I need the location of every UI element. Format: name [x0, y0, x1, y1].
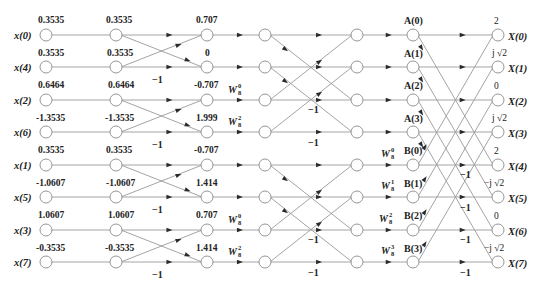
arrow-icon [386, 33, 392, 37]
output-label: X(7) [507, 258, 527, 270]
svg-text:8: 8 [238, 219, 242, 226]
arrow-icon [237, 195, 243, 199]
stage2-value: -0.707 [194, 145, 219, 155]
arrow-icon [316, 98, 322, 102]
arrow-icon [386, 228, 392, 232]
arrow-icon [386, 98, 392, 102]
node-circle [201, 94, 213, 106]
intermediate-label: A(1) [404, 48, 423, 60]
output-label: X(1) [507, 63, 527, 75]
intermediate-label: B(2) [404, 210, 422, 222]
arrow-icon [237, 228, 243, 232]
negation-label: −1 [460, 169, 471, 180]
node-circle [492, 191, 504, 203]
arrow-icon [184, 187, 190, 191]
arrow-icon [237, 65, 243, 69]
output-value: j √2 [491, 113, 507, 123]
arrow-icon [386, 195, 392, 199]
node-circle [492, 94, 504, 106]
stage2-value: 1.414 [196, 178, 218, 188]
output-value: 0 [494, 211, 499, 221]
arrow-icon [460, 65, 466, 69]
intermediate-label: A(2) [404, 80, 423, 92]
arrow-icon [316, 228, 322, 232]
arrow-icon [175, 174, 181, 178]
node-circle [110, 224, 122, 236]
arrow-icon [166, 260, 172, 264]
node-circle [110, 126, 122, 138]
negation-label: −1 [152, 139, 163, 150]
twiddle-factor: W 1 8 [381, 178, 395, 192]
arrow-icon [316, 65, 322, 69]
arrow-icon [166, 33, 172, 37]
node-circle [407, 61, 419, 73]
svg-text:W: W [381, 148, 391, 159]
node-circle [407, 191, 419, 203]
arrow-icon [184, 122, 190, 126]
input-label: x(1) [13, 160, 32, 172]
arrow-icon [166, 98, 172, 102]
svg-text:8: 8 [391, 250, 395, 257]
node-circle [40, 126, 52, 138]
input-value: -1.3535 [36, 113, 66, 123]
intermediate-label: B(0) [404, 145, 422, 157]
arrow-icon [460, 33, 466, 37]
negation-label: −1 [460, 202, 471, 213]
negation-label: −1 [308, 137, 319, 148]
stage1-value: -0.3535 [105, 243, 135, 253]
arrow-icon [316, 60, 322, 65]
stage2-value: -0.707 [194, 80, 219, 90]
stage2-value: 1.999 [196, 113, 218, 123]
node-circle [259, 191, 271, 203]
arrow-icon [166, 65, 172, 69]
arrow-icon [316, 195, 322, 199]
svg-text:W: W [228, 246, 238, 257]
node-circle [492, 224, 504, 236]
labels: x(0) x(4) x(2) x(6) x(1) x(5) x(3) x(7) … [13, 15, 527, 280]
node-circle [40, 94, 52, 106]
node-circle [201, 29, 213, 41]
output-label: X(4) [507, 161, 527, 173]
arrow-icon [460, 98, 466, 102]
input-value: 1.0607 [38, 210, 64, 220]
node-circle [351, 126, 363, 138]
output-label: X(0) [507, 31, 527, 43]
twiddle-factor: W 2 8 [228, 114, 242, 128]
node-circle [110, 159, 122, 171]
svg-text:1: 1 [391, 178, 394, 185]
svg-text:W: W [228, 116, 238, 127]
output-value: −j √2 [484, 178, 505, 188]
arrow-icon [316, 92, 322, 97]
svg-text:W: W [228, 84, 238, 95]
input-label: x(3) [13, 225, 32, 237]
svg-text:W: W [379, 213, 389, 224]
input-label: x(2) [13, 95, 32, 107]
output-label: X(6) [507, 226, 527, 238]
node-circle [259, 94, 271, 106]
node-circle [201, 224, 213, 236]
node-circle [40, 256, 52, 268]
arrow-icon [386, 65, 392, 69]
node-circle [259, 224, 271, 236]
node-circle [110, 29, 122, 41]
svg-text:8: 8 [389, 218, 393, 225]
svg-text:3: 3 [391, 243, 395, 250]
node-circle [110, 191, 122, 203]
node-circle [407, 224, 419, 236]
stage2-value: 0.707 [196, 210, 218, 220]
arrow-icon [386, 163, 392, 167]
negation-label: −1 [152, 74, 163, 85]
node-circle [259, 159, 271, 171]
arrow-icon [460, 228, 466, 232]
node-circle [351, 256, 363, 268]
stage2-value: 1.414 [196, 243, 218, 253]
input-value: 0.3535 [38, 48, 64, 58]
node-circle [40, 191, 52, 203]
twiddle-factor: W 0 8 [228, 212, 242, 226]
svg-text:0: 0 [391, 146, 394, 153]
stage1-value: 0.3535 [107, 48, 133, 58]
stage2-value: 0 [205, 48, 210, 58]
node-circle [259, 29, 271, 41]
svg-text:8: 8 [238, 251, 242, 258]
node-circle [201, 61, 213, 73]
